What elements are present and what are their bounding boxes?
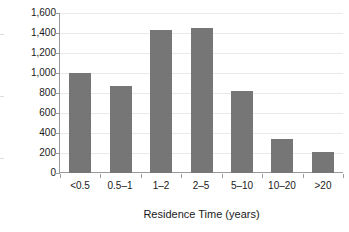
plot-area — [60, 13, 343, 173]
y-axis-tick-mark — [55, 113, 59, 114]
x-axis-tick-mark — [100, 174, 101, 178]
bar — [110, 86, 132, 173]
scan-artifact — [0, 158, 4, 159]
x-axis-tick-label: 1–2 — [141, 180, 181, 192]
y-axis-tick-label: 0 — [22, 168, 56, 178]
x-axis-tick-labels: <0.50.5–11–22–55–1010–20>20 — [60, 180, 343, 194]
x-axis-title: Residence Time (years) — [60, 207, 343, 221]
bar — [271, 139, 293, 173]
x-axis-tick-mark — [343, 174, 344, 178]
y-axis-tick-mark — [55, 173, 59, 174]
bar — [150, 30, 172, 173]
y-axis-tick-label: 200 — [22, 148, 56, 158]
bar — [231, 91, 253, 173]
scan-artifact — [0, 34, 4, 35]
x-axis-tick-mark — [222, 174, 223, 178]
y-axis-tick-label: 1,400 — [22, 28, 56, 38]
x-axis-tick-label: 0.5–1 — [100, 180, 140, 192]
y-axis-tick-label: 1,000 — [22, 68, 56, 78]
y-axis-tick-mark — [55, 133, 59, 134]
y-axis-tick-labels: 02004006008001,0001,2001,4001,600 — [22, 13, 56, 173]
y-axis-tick-label: 800 — [22, 88, 56, 98]
scan-artifact — [0, 96, 4, 97]
y-axis-tick-label: 400 — [22, 128, 56, 138]
x-axis-tick-mark — [303, 174, 304, 178]
y-axis-tick-label: 600 — [22, 108, 56, 118]
x-axis-tick-label: 10–20 — [262, 180, 302, 192]
bar — [191, 28, 213, 173]
x-axis-tick-mark — [262, 174, 263, 178]
bars-layer — [60, 13, 343, 173]
y-axis-tick-mark — [55, 153, 59, 154]
y-axis-tick-mark — [55, 93, 59, 94]
x-axis-tick-mark — [60, 174, 61, 178]
x-axis-tick-mark — [141, 174, 142, 178]
y-axis-tick-mark — [55, 73, 59, 74]
bar — [69, 73, 91, 173]
y-axis-tick-label: 1,600 — [22, 8, 56, 18]
y-axis-tick-mark — [55, 53, 59, 54]
x-axis-tick-label: 5–10 — [222, 180, 262, 192]
x-axis-tick-label: 2–5 — [181, 180, 221, 192]
x-axis-tick-mark — [181, 174, 182, 178]
x-axis-tick-label: >20 — [303, 180, 343, 192]
y-axis-tick-label: 1,200 — [22, 48, 56, 58]
y-axis-tick-mark — [55, 13, 59, 14]
bar — [312, 152, 334, 173]
x-axis-tick-label: <0.5 — [60, 180, 100, 192]
y-axis-tick-mark — [55, 33, 59, 34]
bar-chart-figure: Population (millions) 02004006008001,000… — [0, 0, 349, 232]
